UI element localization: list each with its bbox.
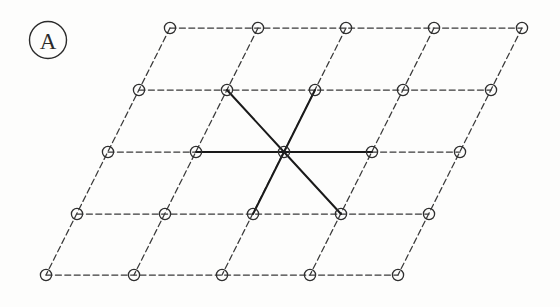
- figure-background: [0, 0, 560, 307]
- figure-panel: A: [0, 0, 560, 307]
- panel-label-letter: A: [40, 29, 57, 54]
- lattice-diagram: A: [0, 0, 560, 307]
